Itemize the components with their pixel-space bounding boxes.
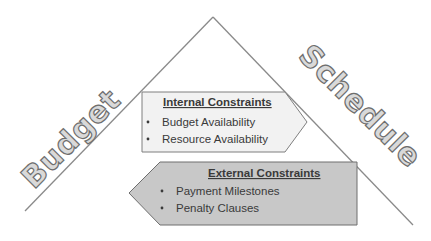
constraints-diagram: Budget Schedule Internal Constraints Bud… [0, 0, 431, 241]
internal-constraints-title: Internal Constraints [163, 96, 272, 108]
internal-constraints-box: Internal Constraints Budget Availability… [142, 92, 307, 152]
external-constraints-title: External Constraints [208, 167, 320, 179]
schedule-label: Schedule [292, 37, 429, 174]
internal-item-resource: Resource Availability [162, 133, 268, 145]
bullet-icon [161, 207, 164, 210]
internal-item-budget: Budget Availability [162, 116, 255, 128]
external-item-penalty: Penalty Clauses [176, 202, 259, 214]
external-item-payment: Payment Milestones [176, 185, 280, 197]
bullet-icon [147, 121, 150, 124]
bullet-icon [147, 138, 150, 141]
external-constraints-box: External Constraints Payment Milestones … [129, 162, 357, 225]
bullet-icon [161, 190, 164, 193]
budget-label: Budget [14, 82, 127, 195]
